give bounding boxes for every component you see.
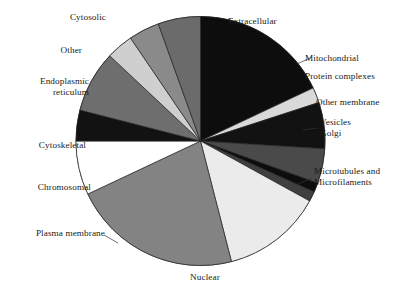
label-microtubules-line2: Microfilaments (314, 177, 372, 187)
label-nuclear: Nuclear (150, 272, 260, 283)
pie-slices-group (76, 17, 325, 266)
leader-plasma-membrane (104, 235, 118, 243)
label-protein-complexes: Protein complexes (305, 71, 417, 82)
label-other-membrane: Other membrane (316, 97, 417, 108)
label-endoplasmic-reticulum: Endoplasmicreticulum (0, 76, 89, 97)
label-microtubules: Microtubules andMicrofilaments (314, 166, 417, 187)
label-cytosolic: Cytosolic (2, 12, 106, 23)
label-endoplasmic-line1: Endoplasmic (40, 76, 89, 86)
label-mitochondrial: Mitochondrial (305, 53, 415, 64)
label-vesicles: Vesicles (320, 117, 417, 128)
label-golgi: Golgi (320, 128, 417, 139)
label-cytoskeletal: Cytoskeletal (0, 140, 86, 151)
label-endoplasmic-line2: reticulum (53, 87, 89, 97)
label-chromosomal: Chromosomal (0, 182, 91, 193)
label-microtubules-line1: Microtubules and (314, 166, 380, 176)
pie-chart: Cytosolic Extracellular Mitochondrial Pr… (0, 0, 417, 293)
label-plasma-membrane: Plasma membrane (0, 228, 105, 239)
label-extracellular: Extracellular (228, 16, 338, 27)
label-other: Other (16, 45, 82, 56)
